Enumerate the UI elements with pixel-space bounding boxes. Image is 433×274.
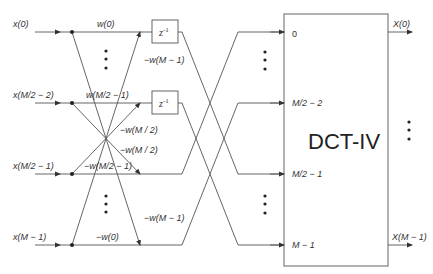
delay-z-inverse-2: z-1 bbox=[159, 98, 169, 109]
input-label-x0: x(0) bbox=[13, 20, 29, 29]
output-label-X0: X(0) bbox=[393, 20, 410, 29]
weight-w0: w(0) bbox=[97, 20, 115, 29]
output-label-X-m-1: X(M − 1) bbox=[392, 233, 427, 242]
weight-neg-w0: −w(0) bbox=[96, 233, 119, 242]
dct-block-title: DCT-IV bbox=[308, 131, 380, 153]
weight-neg-w-m-1-bottom: −w(M − 1) bbox=[144, 214, 185, 223]
dct-port-m2-1: M/2 − 1 bbox=[292, 170, 322, 179]
weight-neg-w-m-1-top: −w(M − 1) bbox=[144, 56, 185, 65]
weight-w-m2-1: w(M/2 − 1) bbox=[86, 91, 129, 100]
weight-neg-w-m2-a: −w(M / 2) bbox=[120, 126, 158, 135]
dct-port-m-1: M − 1 bbox=[292, 241, 315, 250]
input-label-x-m-1: x(M − 1) bbox=[13, 233, 46, 242]
input-label-x-m2-2: x(M/2 − 2) bbox=[13, 91, 54, 100]
dct-port-0: 0 bbox=[292, 30, 297, 39]
weight-neg-w-m2-1: −w(M/2 − 1) bbox=[84, 162, 132, 171]
input-label-x-m2-1: x(M/2 − 1) bbox=[13, 162, 54, 171]
dct-iv-butterfly-diagram: x(0) x(M/2 − 2) x(M/2 − 1) x(M − 1) w(0)… bbox=[0, 0, 433, 274]
delay-z-inverse-1: z-1 bbox=[159, 27, 169, 38]
weight-neg-w-m2-b: −w(M / 2) bbox=[120, 146, 158, 155]
dct-port-m2-2: M/2 − 2 bbox=[292, 99, 322, 108]
